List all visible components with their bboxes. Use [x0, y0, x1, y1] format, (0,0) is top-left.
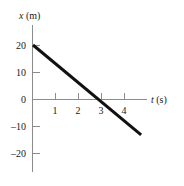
position-line	[33, 45, 141, 135]
plot-area	[0, 0, 184, 186]
position-time-graph: 20 10 0 –10 –20 1 2 3 4 x (m) t (s)	[0, 0, 184, 186]
